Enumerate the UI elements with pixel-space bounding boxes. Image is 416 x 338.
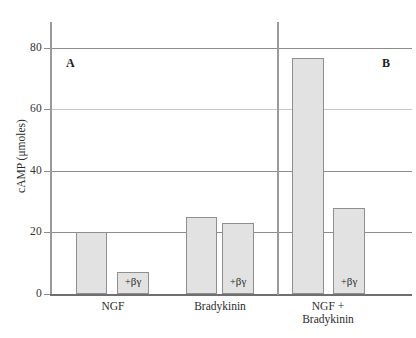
y-axis-title: cAMP (μmoles) [15,71,27,241]
bar-ngf-beta-gamma: +βγ [117,272,149,294]
y-tick-20 [44,232,50,233]
x-axis-line [50,294,412,296]
gridline-80 [50,48,412,49]
gridline-40 [50,171,412,172]
panel-letter-b: B [382,56,390,71]
chart-figure: 80 60 40 20 0 cAMP (μmoles) A B +βγ NGF … [0,0,416,338]
panel-divider [277,22,279,295]
bar-label-ngf-bradykinin-beta-gamma: +βγ [334,275,364,287]
y-tick-label-80: 80 [30,42,42,54]
bar-bradykinin-beta-gamma: +βγ [222,223,254,294]
y-tick-80 [44,48,50,49]
group-label-ngf: NGF [58,300,168,313]
y-axis-line [50,22,52,295]
bar-label-bradykinin-beta-gamma: +βγ [223,275,253,287]
gridline-60 [50,109,412,110]
bar-ngf-bradykinin-beta-gamma: +βγ [333,208,365,294]
y-tick-label-40: 40 [30,165,42,177]
bar-label-ngf-beta-gamma: +βγ [118,275,148,287]
bar-ngf [76,232,107,294]
bar-ngf-bradykinin [292,58,324,294]
group-label-bradykinin: Bradykinin [160,300,280,313]
bar-bradykinin [186,217,217,294]
y-tick-label-0: 0 [36,288,42,300]
y-tick-label-60: 60 [30,103,42,115]
y-tick-0 [44,294,50,295]
y-tick-60 [44,109,50,110]
panel-letter-a: A [66,56,75,71]
y-tick-40 [44,171,50,172]
group-label-ngf-bradykinin: NGF + Bradykinin [268,300,388,326]
y-tick-label-20: 20 [30,226,42,238]
